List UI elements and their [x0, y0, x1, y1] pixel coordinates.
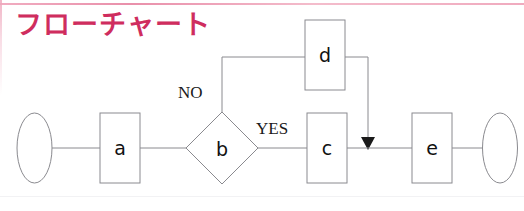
node-a[interactable]: a — [100, 113, 140, 183]
node-d-label: d — [319, 44, 331, 66]
connector-d-to-ce-line — [345, 57, 368, 138]
node-c[interactable]: c — [307, 113, 347, 183]
node-e-label: e — [426, 137, 438, 159]
node-b[interactable]: b — [186, 112, 258, 184]
node-c-label: c — [322, 137, 332, 159]
branch-label-no: NO — [178, 83, 203, 102]
node-d[interactable]: d — [305, 20, 345, 90]
flowchart-page: フローチャート a b c — [0, 0, 524, 211]
node-e[interactable]: e — [412, 113, 452, 183]
end-terminator-ellipse[interactable] — [483, 113, 518, 183]
flowchart-diagram: a b c d e NO YES — [0, 0, 524, 211]
node-end[interactable] — [483, 113, 518, 183]
connector-b-to-d-no-branch — [222, 57, 305, 112]
node-a-label: a — [114, 137, 126, 159]
node-start[interactable] — [17, 113, 52, 183]
node-b-label: b — [216, 138, 228, 160]
start-terminator-ellipse[interactable] — [17, 113, 52, 183]
branch-label-yes: YES — [256, 119, 288, 138]
